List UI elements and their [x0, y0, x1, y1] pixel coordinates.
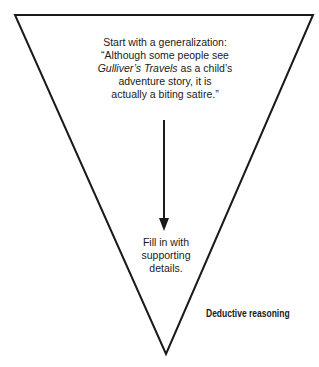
- diagram-caption: Deductive reasoning: [206, 308, 290, 319]
- generalization-line-4: adventure story, it is: [95, 75, 235, 88]
- details-line-2: supporting: [125, 249, 207, 262]
- generalization-line-1: Start with a generalization:: [95, 36, 235, 49]
- generalization-line-5: actually a biting satire.”: [95, 88, 235, 101]
- arrow-head-icon: [159, 218, 169, 231]
- generalization-line-2: “Although some people see: [95, 49, 235, 62]
- details-line-1: Fill in with: [125, 236, 207, 249]
- details-line-3: details.: [125, 262, 207, 275]
- generalization-line-3: Gulliver’s Travels as a child’s: [95, 62, 235, 75]
- book-title: Gulliver’s Travels: [98, 62, 178, 74]
- generalization-text: Start with a generalization: “Although s…: [95, 36, 235, 101]
- supporting-details-text: Fill in with supporting details.: [125, 236, 207, 275]
